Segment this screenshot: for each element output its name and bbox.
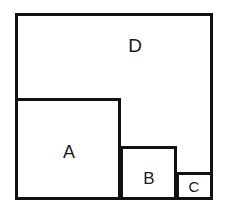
region-label-c: C [189,179,200,194]
region-label-b: B [143,170,154,187]
region-label-d: D [128,36,142,55]
nested-squares-diagram: D A B C [0,0,228,211]
region-label-a: A [63,143,75,161]
